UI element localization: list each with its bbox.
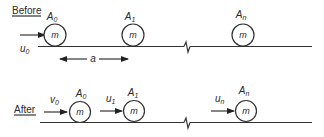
after-section: After v0 m A0 u1 m A1 un m An <box>14 85 312 128</box>
after-heading: After <box>14 104 36 115</box>
velocity-label: u1 <box>106 93 116 105</box>
ball-mass-label: m <box>130 106 138 116</box>
ball-name-label: An <box>238 85 250 97</box>
before-heading: Before <box>12 5 42 16</box>
ball-mass-label: m <box>242 106 250 116</box>
before-ball-a0: m A0 <box>44 11 66 46</box>
ball-name-label: A1 <box>124 11 136 23</box>
after-track-break <box>184 118 190 128</box>
after-ball-an: un m An <box>211 85 257 122</box>
incoming-velocity-label: u0 <box>20 43 30 55</box>
ball-mass-label: m <box>51 30 59 40</box>
ball-name-label: A0 <box>75 88 87 100</box>
ball-name-label: An <box>235 9 247 21</box>
collision-diagram: Before u0 m A0 m A1 m An a After <box>0 0 324 137</box>
after-ball-a1: u1 m A1 <box>100 87 145 122</box>
before-track-break <box>184 42 190 52</box>
spacing-label: a <box>90 53 96 64</box>
before-section: Before u0 m A0 m A1 m An a <box>12 5 312 64</box>
ball-mass-label: m <box>239 30 247 40</box>
ball-mass-label: m <box>129 30 137 40</box>
ball-mass-label: m <box>76 107 84 117</box>
before-ball-an: m An <box>232 9 254 46</box>
before-ball-a1: m A1 <box>122 11 144 46</box>
velocity-label: un <box>215 93 225 105</box>
ball-name-label: A0 <box>46 11 58 23</box>
after-ball-a0: v0 m A0 <box>44 88 91 123</box>
velocity-label: v0 <box>50 94 59 106</box>
ball-name-label: A1 <box>127 87 139 99</box>
